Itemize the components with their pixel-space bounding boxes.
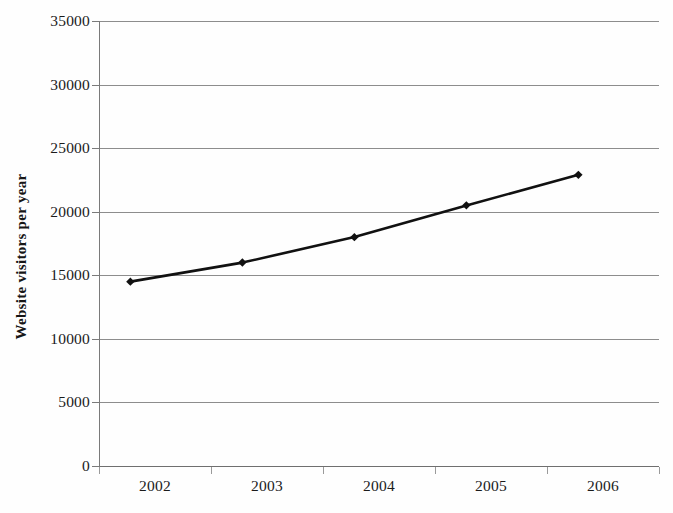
x-axis-tick-label: 2003 [251, 477, 283, 495]
gridline [99, 339, 659, 340]
y-axis-tick-labels: 05000100001500020000250003000035000 [0, 0, 90, 513]
x-axis-tick-label: 2002 [139, 477, 171, 495]
y-axis-tick [92, 148, 99, 149]
y-axis-tick-label: 20000 [8, 203, 90, 221]
line-chart: Website visitors per year 05000100001500… [0, 0, 673, 513]
y-axis-tick [92, 402, 99, 403]
x-axis-tick-label: 2006 [587, 477, 619, 495]
gridline [99, 466, 659, 467]
x-axis-tick [659, 467, 660, 474]
y-axis-tick-label: 15000 [8, 266, 90, 284]
y-axis-tick [92, 275, 99, 276]
gridline [99, 148, 659, 149]
y-axis-tick-label: 30000 [8, 76, 90, 94]
x-axis-tick [211, 467, 212, 474]
gridline [99, 85, 659, 86]
x-axis-tick [547, 467, 548, 474]
y-axis-tick [92, 339, 99, 340]
gridline [99, 402, 659, 403]
x-axis-tick [435, 467, 436, 474]
x-axis-tick [323, 467, 324, 474]
plot-area [99, 21, 659, 466]
y-axis-tick-label: 25000 [8, 139, 90, 157]
gridline [99, 212, 659, 213]
y-axis-tick-label: 10000 [8, 330, 90, 348]
y-axis-tick [92, 212, 99, 213]
y-axis-tick [92, 21, 99, 22]
y-axis-tick-label: 35000 [8, 12, 90, 30]
y-axis-tick [92, 466, 99, 467]
y-axis-tick [92, 85, 99, 86]
x-axis-tick-label: 2004 [363, 477, 395, 495]
gridline [99, 275, 659, 276]
y-axis-line [99, 21, 100, 467]
x-axis-tick [99, 467, 100, 474]
x-axis-tick-label: 2005 [475, 477, 507, 495]
y-axis-tick-label: 0 [8, 457, 90, 475]
gridline [99, 21, 659, 22]
y-axis-tick-label: 5000 [8, 393, 90, 411]
